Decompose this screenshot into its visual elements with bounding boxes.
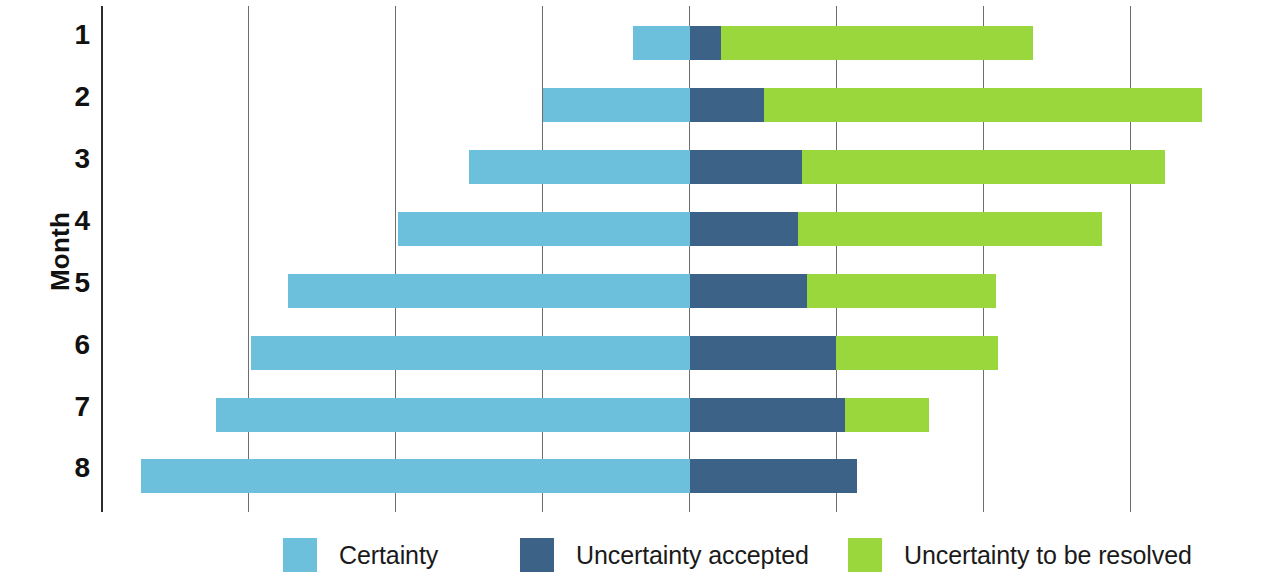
- legend-label-resolved: Uncertainty to be resolved: [904, 541, 1192, 570]
- gridline-5: [836, 6, 837, 512]
- bar-segment-certainty-month-6: [251, 336, 691, 370]
- bar-segment-uncertainty-to-be-resolved-month-1: [721, 26, 1033, 60]
- y-tick-label-1: 1: [36, 18, 90, 52]
- bar-segment-uncertainty-to-be-resolved-month-5: [807, 274, 997, 308]
- bar-segment-uncertainty-to-be-resolved-month-4: [798, 212, 1102, 246]
- y-tick-label-5: 5: [36, 266, 90, 300]
- legend-swatch-certainty: [283, 538, 317, 572]
- bar-segment-uncertainty-accepted-month-8: [690, 459, 856, 493]
- legend-item-resolved[interactable]: Uncertainty to be resolved: [848, 528, 1192, 582]
- gridline-1: [248, 6, 249, 512]
- bar-segment-certainty-month-1: [633, 26, 690, 60]
- gridline-2: [395, 6, 396, 512]
- bar-segment-certainty-month-8: [141, 459, 691, 493]
- gridline-6: [983, 6, 984, 512]
- chart-page: Month 12345678 CertaintyUncertainty acce…: [0, 0, 1275, 582]
- bar-row-month-7: [101, 398, 1275, 432]
- bar-segment-certainty-month-7: [216, 398, 691, 432]
- y-tick-label-4: 4: [36, 204, 90, 238]
- bar-row-month-5: [101, 274, 1275, 308]
- gridline-3: [542, 6, 543, 512]
- bar-segment-uncertainty-accepted-month-5: [690, 274, 806, 308]
- legend-label-certainty: Certainty: [339, 541, 438, 570]
- legend-label-accepted: Uncertainty accepted: [576, 541, 809, 570]
- bar-segment-uncertainty-to-be-resolved-month-3: [802, 150, 1165, 184]
- legend-item-certainty[interactable]: Certainty: [283, 528, 438, 582]
- bar-segment-certainty-month-5: [288, 274, 691, 308]
- bar-segment-uncertainty-accepted-month-3: [690, 150, 802, 184]
- bar-segment-certainty-month-3: [469, 150, 691, 184]
- bar-segment-uncertainty-to-be-resolved-month-2: [764, 88, 1202, 122]
- bar-segment-uncertainty-accepted-month-7: [690, 398, 844, 432]
- chart-legend: CertaintyUncertainty acceptedUncertainty…: [0, 528, 1275, 582]
- plot-area: [101, 6, 1275, 512]
- legend-swatch-accepted: [520, 538, 554, 572]
- bar-row-month-1: [101, 26, 1275, 60]
- bar-row-month-6: [101, 336, 1275, 370]
- y-tick-label-7: 7: [36, 390, 90, 424]
- bar-segment-uncertainty-to-be-resolved-month-7: [845, 398, 929, 432]
- bar-segment-uncertainty-accepted-month-2: [690, 88, 764, 122]
- legend-swatch-resolved: [848, 538, 882, 572]
- bar-row-month-3: [101, 150, 1275, 184]
- gridline-7: [1130, 6, 1131, 512]
- y-tick-label-2: 2: [36, 80, 90, 114]
- bar-segment-uncertainty-accepted-month-6: [690, 336, 836, 370]
- bar-segment-certainty-month-4: [398, 212, 691, 246]
- bar-segment-uncertainty-to-be-resolved-month-6: [836, 336, 998, 370]
- y-tick-label-8: 8: [36, 451, 90, 485]
- y-axis-line: [101, 6, 103, 512]
- bar-segment-uncertainty-accepted-month-4: [690, 212, 797, 246]
- bar-segment-uncertainty-accepted-month-1: [690, 26, 721, 60]
- y-tick-label-3: 3: [36, 142, 90, 176]
- bar-row-month-2: [101, 88, 1275, 122]
- y-tick-label-6: 6: [36, 328, 90, 362]
- bar-row-month-8: [101, 459, 1275, 493]
- legend-item-accepted[interactable]: Uncertainty accepted: [520, 528, 809, 582]
- bar-segment-certainty-month-2: [543, 88, 690, 122]
- bar-row-month-4: [101, 212, 1275, 246]
- gridline-4: [689, 6, 690, 512]
